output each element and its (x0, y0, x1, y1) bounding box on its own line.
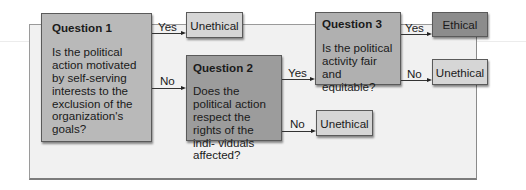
question-1-text: Is the political action motivated by sel… (52, 46, 141, 136)
outcome-q1-yes-unethical: Unethical (186, 12, 243, 38)
outcome-q3-yes-ethical: Ethical (432, 12, 488, 37)
outcome-q3-no-label: Unethical (436, 66, 484, 79)
outcome-q1-yes-label: Unethical (190, 19, 238, 32)
q1-no-connector (152, 88, 182, 89)
question-2-box: Question 2 Does the political action res… (186, 55, 282, 141)
q2-yes-label: Yes (288, 66, 307, 79)
q3-yes-connector (401, 34, 428, 35)
outcome-q3-no-unethical: Unethical (432, 59, 488, 85)
question-2-text: Does the political action respect the ri… (193, 85, 275, 162)
q3-no-label: No (407, 67, 422, 80)
q1-no-label: No (160, 74, 175, 87)
q3-yes-label: Yes (405, 21, 424, 34)
q3-no-connector (401, 80, 428, 81)
outcome-q3-yes-label: Ethical (443, 18, 478, 31)
question-3-box: Question 3 Is the political activity fai… (315, 12, 401, 85)
q2-no-connector (282, 131, 312, 132)
q1-yes-connector (152, 33, 182, 34)
question-3-text: Is the political activity fair and equit… (322, 42, 394, 94)
outcome-q2-no-label: Unethical (320, 117, 368, 130)
q2-yes-connector (282, 79, 311, 80)
outcome-q2-no-unethical: Unethical (316, 110, 373, 136)
question-1-box: Question 1 Is the political action motiv… (41, 13, 152, 142)
question-2-title: Question 2 (193, 62, 275, 75)
q1-yes-label: Yes (158, 20, 177, 33)
question-1-title: Question 1 (52, 22, 141, 35)
q2-no-label: No (290, 117, 305, 130)
question-3-title: Question 3 (322, 18, 394, 31)
